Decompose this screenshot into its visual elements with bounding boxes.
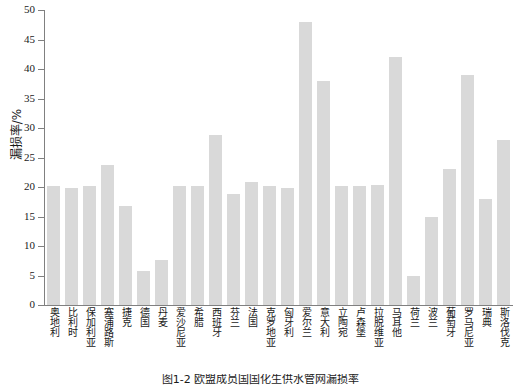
x-axis-category-label: 爱尔兰 [300,307,311,337]
bar[interactable] [479,199,492,305]
figure-caption: 图1-2 欧盟成员国国化生供水管网漏损率 [0,374,521,386]
y-axis-tick-label: 40 [6,63,35,74]
x-axis-category-label: 葡萄牙 [444,307,455,337]
bar[interactable] [83,186,96,305]
bar-slot[interactable] [134,10,152,305]
bar-slot[interactable] [369,10,387,305]
bar-slot[interactable] [170,10,188,305]
y-axis-tick-label: 20 [6,181,35,192]
x-axis-category-label: 卢森堡 [354,307,365,337]
bar[interactable] [425,217,438,306]
x-axis-category-label: 立陶宛 [336,307,347,337]
bar[interactable] [335,186,348,305]
bar[interactable] [497,140,510,305]
x-axis-category-label: 拉脱维亚 [372,307,383,347]
bar-slot[interactable] [495,10,513,305]
bar-slot[interactable] [224,10,242,305]
bar-slot[interactable] [80,10,98,305]
bar[interactable] [227,194,240,306]
bar-slot[interactable] [459,10,477,305]
bar-slot[interactable] [62,10,80,305]
x-axis-category-label: 爱沙尼亚 [174,307,185,347]
x-axis-category-label: 瑞典 [480,307,491,327]
bar-slot[interactable] [315,10,333,305]
x-axis-spine [44,305,513,306]
y-axis-tick-label: 50 [6,4,35,15]
x-axis-category-label: 保加利亚 [84,307,95,347]
bar[interactable] [119,206,132,305]
bar[interactable] [209,135,222,306]
bar[interactable] [65,188,78,305]
x-axis-category-label: 法国 [246,307,257,327]
x-axis-category-label: 克罗地亚 [264,307,275,347]
bar[interactable] [461,75,474,305]
bar-slot[interactable] [387,10,405,305]
y-axis-tick-label: 10 [6,240,35,251]
bar[interactable] [101,165,114,305]
bar-slot[interactable] [242,10,260,305]
x-axis-category-label: 匈牙利 [282,307,293,337]
bar[interactable] [191,186,204,305]
bar-slot[interactable] [423,10,441,305]
bar[interactable] [443,169,456,305]
bar[interactable] [371,185,384,305]
bar-slot[interactable] [477,10,495,305]
bar[interactable] [245,182,258,305]
bar-slot[interactable] [116,10,134,305]
bar-slot[interactable] [441,10,459,305]
bar[interactable] [299,22,312,305]
bar[interactable] [155,260,168,305]
bar-slot[interactable] [351,10,369,305]
figure-container: 漏损率/% 05101520253035404550 奥地利比利时保加利亚塞浦路… [0,0,521,386]
bar[interactable] [389,57,402,305]
y-axis-tick-label: 15 [6,211,35,222]
bar-slot[interactable] [405,10,423,305]
bar-slot[interactable] [333,10,351,305]
bar-slot[interactable] [44,10,62,305]
y-axis-tick-label: 0 [6,299,35,310]
x-axis-category-label: 希腊 [192,307,203,327]
x-axis-category-label: 芬兰 [228,307,239,327]
bar[interactable] [353,186,366,305]
x-axis-category-label: 波兰 [426,307,437,327]
x-axis-category-label: 德国 [138,307,149,327]
x-axis-category-label: 意大利 [318,307,329,337]
bar-slot[interactable] [260,10,278,305]
x-axis-labels: 奥地利比利时保加利亚塞浦路斯捷克德国丹麦爱沙尼亚希腊西班牙芬兰法国克罗地亚匈牙利… [44,307,513,379]
y-axis-tick-label: 35 [6,93,35,104]
x-axis-category-label: 西班牙 [210,307,221,337]
x-axis-category-label: 罗马尼亚 [462,307,473,347]
x-axis-category-label: 奥地利 [48,307,59,337]
y-axis-tick-label: 25 [6,152,35,163]
bar[interactable] [281,188,294,305]
bar[interactable] [47,186,60,305]
bar-slot[interactable] [98,10,116,305]
x-axis-category-label: 荷兰 [408,307,419,327]
x-axis-category-label: 马耳他 [390,307,401,337]
bar[interactable] [317,81,330,305]
y-axis-tick-label: 30 [6,122,35,133]
x-axis-category-label: 塞浦路斯 [102,307,113,347]
x-axis-category-label: 丹麦 [156,307,167,327]
y-axis-tick-label: 45 [6,34,35,45]
bar-slot[interactable] [188,10,206,305]
x-axis-category-label: 比利时 [66,307,77,337]
plot-area [44,10,513,305]
bar[interactable] [173,186,186,305]
bar[interactable] [137,271,150,305]
bar-slot[interactable] [206,10,224,305]
bar-slot[interactable] [279,10,297,305]
bar-slot[interactable] [152,10,170,305]
bar[interactable] [263,186,276,305]
y-axis-title: 漏损率/% [11,92,24,178]
bar-slot[interactable] [297,10,315,305]
y-axis-tick-mark [38,305,44,306]
x-axis-category-label: 斯洛伐克 [498,307,509,347]
bar[interactable] [407,276,420,306]
x-axis-category-label: 捷克 [120,307,131,327]
y-axis-tick-label: 5 [6,270,35,281]
